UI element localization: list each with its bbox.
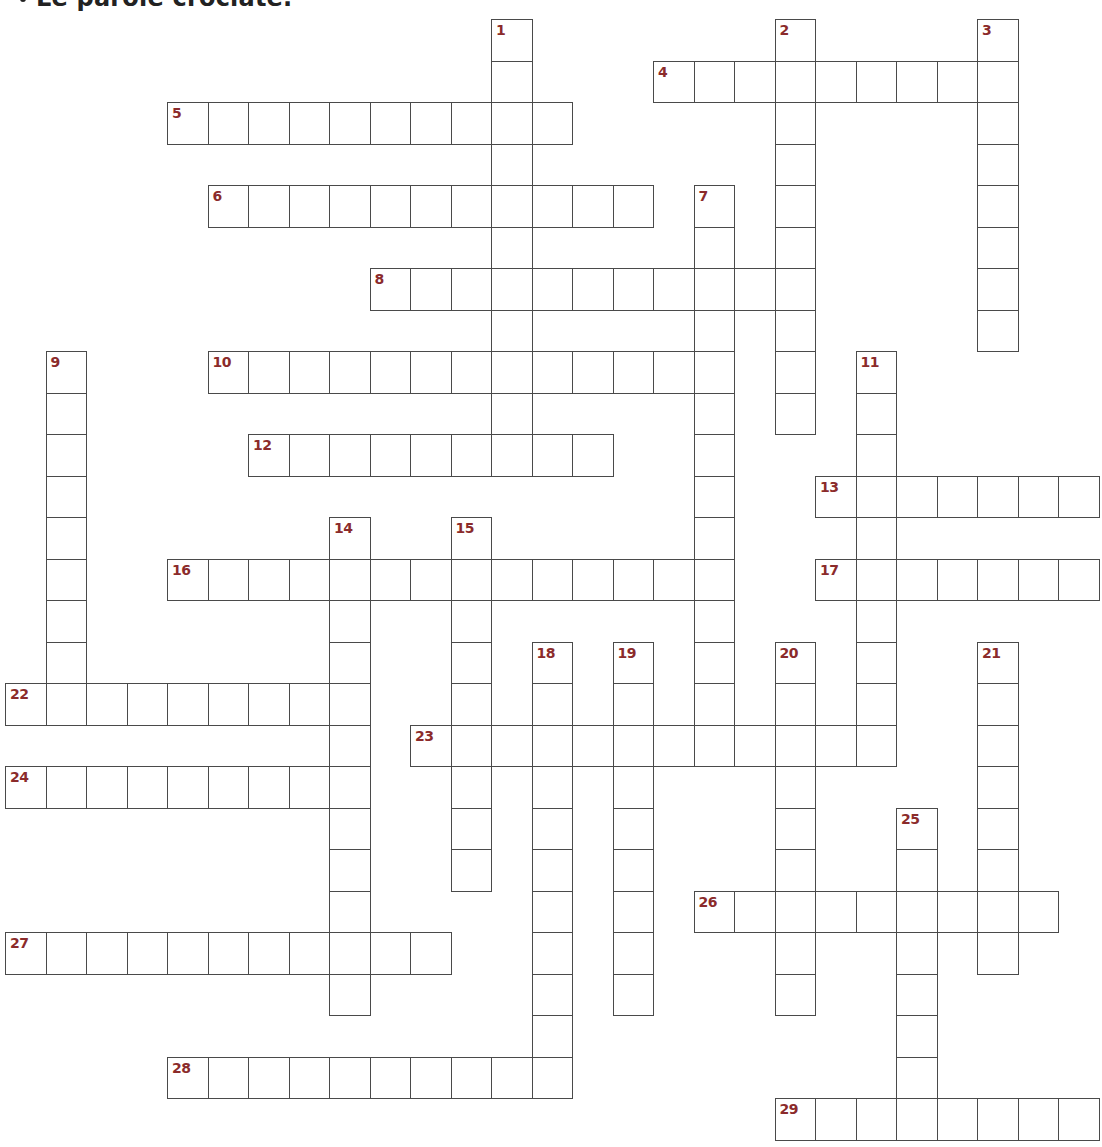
- crossword-cell[interactable]: [815, 1098, 857, 1141]
- crossword-cell[interactable]: [694, 310, 736, 353]
- crossword-cell[interactable]: [977, 476, 1019, 519]
- crossword-cell[interactable]: [491, 725, 533, 768]
- crossword-cell[interactable]: 1: [491, 19, 533, 62]
- crossword-cell[interactable]: [977, 683, 1019, 726]
- crossword-cell[interactable]: [491, 185, 533, 228]
- crossword-cell[interactable]: [977, 725, 1019, 768]
- crossword-cell[interactable]: [127, 683, 169, 726]
- crossword-cell[interactable]: [329, 185, 371, 228]
- crossword-cell[interactable]: [410, 268, 452, 311]
- crossword-cell[interactable]: [329, 642, 371, 685]
- crossword-cell[interactable]: [370, 185, 412, 228]
- crossword-cell[interactable]: [491, 102, 533, 145]
- crossword-cell[interactable]: [734, 891, 776, 934]
- crossword-cell[interactable]: [896, 559, 938, 602]
- crossword-cell[interactable]: [410, 559, 452, 602]
- crossword-cell[interactable]: [977, 891, 1019, 934]
- crossword-cell[interactable]: 16: [167, 559, 209, 602]
- crossword-cell[interactable]: [329, 891, 371, 934]
- crossword-cell[interactable]: [329, 600, 371, 643]
- crossword-cell[interactable]: [694, 61, 736, 104]
- crossword-cell[interactable]: [977, 310, 1019, 353]
- crossword-cell[interactable]: [289, 351, 331, 394]
- crossword-cell[interactable]: [653, 351, 695, 394]
- crossword-cell[interactable]: [694, 351, 736, 394]
- crossword-cell[interactable]: [167, 683, 209, 726]
- crossword-cell[interactable]: [46, 559, 88, 602]
- crossword-cell[interactable]: [532, 434, 574, 477]
- crossword-cell[interactable]: [694, 393, 736, 436]
- crossword-cell[interactable]: [977, 766, 1019, 809]
- crossword-cell[interactable]: [977, 849, 1019, 892]
- crossword-cell[interactable]: [532, 559, 574, 602]
- crossword-cell[interactable]: [734, 268, 776, 311]
- crossword-cell[interactable]: [410, 351, 452, 394]
- crossword-cell[interactable]: [532, 683, 574, 726]
- crossword-cell[interactable]: [937, 891, 979, 934]
- crossword-cell[interactable]: [451, 642, 493, 685]
- crossword-cell[interactable]: [775, 268, 817, 311]
- crossword-cell[interactable]: [410, 932, 452, 975]
- crossword-cell[interactable]: [370, 559, 412, 602]
- crossword-cell[interactable]: [613, 766, 655, 809]
- crossword-cell[interactable]: [451, 351, 493, 394]
- crossword-cell[interactable]: [451, 102, 493, 145]
- crossword-cell[interactable]: [208, 559, 250, 602]
- crossword-cell[interactable]: [248, 185, 290, 228]
- crossword-cell[interactable]: [775, 891, 817, 934]
- crossword-cell[interactable]: 5: [167, 102, 209, 145]
- crossword-cell[interactable]: [451, 268, 493, 311]
- crossword-cell[interactable]: [977, 268, 1019, 311]
- crossword-cell[interactable]: [775, 393, 817, 436]
- crossword-cell[interactable]: [977, 932, 1019, 975]
- crossword-cell[interactable]: [694, 642, 736, 685]
- crossword-cell[interactable]: [856, 725, 898, 768]
- crossword-cell[interactable]: 10: [208, 351, 250, 394]
- crossword-cell[interactable]: 23: [410, 725, 452, 768]
- crossword-cell[interactable]: [532, 849, 574, 892]
- crossword-cell[interactable]: [491, 559, 533, 602]
- crossword-cell[interactable]: [734, 725, 776, 768]
- crossword-cell[interactable]: [1058, 1098, 1100, 1141]
- crossword-cell[interactable]: [289, 932, 331, 975]
- crossword-cell[interactable]: [613, 891, 655, 934]
- crossword-cell[interactable]: 6: [208, 185, 250, 228]
- crossword-cell[interactable]: [491, 310, 533, 353]
- crossword-cell[interactable]: [694, 600, 736, 643]
- crossword-cell[interactable]: [775, 849, 817, 892]
- crossword-cell[interactable]: [46, 642, 88, 685]
- crossword-cell[interactable]: [694, 559, 736, 602]
- crossword-cell[interactable]: [653, 268, 695, 311]
- crossword-cell[interactable]: [46, 393, 88, 436]
- crossword-cell[interactable]: 8: [370, 268, 412, 311]
- crossword-cell[interactable]: [370, 1057, 412, 1100]
- crossword-cell[interactable]: [1018, 476, 1060, 519]
- crossword-cell[interactable]: [1058, 559, 1100, 602]
- crossword-cell[interactable]: [410, 1057, 452, 1100]
- crossword-cell[interactable]: 24: [5, 766, 47, 809]
- crossword-cell[interactable]: [248, 683, 290, 726]
- crossword-cell[interactable]: [46, 766, 88, 809]
- crossword-cell[interactable]: [329, 766, 371, 809]
- crossword-cell[interactable]: [937, 559, 979, 602]
- crossword-cell[interactable]: [86, 932, 128, 975]
- crossword-cell[interactable]: [775, 351, 817, 394]
- crossword-cell[interactable]: 11: [856, 351, 898, 394]
- crossword-cell[interactable]: [248, 102, 290, 145]
- crossword-cell[interactable]: [451, 559, 493, 602]
- crossword-cell[interactable]: [572, 185, 614, 228]
- crossword-cell[interactable]: 26: [694, 891, 736, 934]
- crossword-cell[interactable]: [694, 434, 736, 477]
- crossword-cell[interactable]: [856, 683, 898, 726]
- crossword-cell[interactable]: [370, 102, 412, 145]
- crossword-cell[interactable]: [613, 808, 655, 851]
- crossword-cell[interactable]: [451, 725, 493, 768]
- crossword-cell[interactable]: [977, 185, 1019, 228]
- crossword-cell[interactable]: [451, 766, 493, 809]
- crossword-cell[interactable]: [1018, 1098, 1060, 1141]
- crossword-cell[interactable]: [370, 932, 412, 975]
- crossword-cell[interactable]: 27: [5, 932, 47, 975]
- crossword-cell[interactable]: [329, 725, 371, 768]
- crossword-cell[interactable]: [653, 559, 695, 602]
- crossword-cell[interactable]: 13: [815, 476, 857, 519]
